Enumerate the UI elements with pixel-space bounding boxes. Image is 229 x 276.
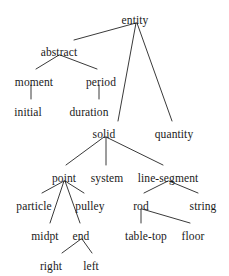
tree-node-quantity: quantity [155, 128, 194, 140]
tree-node-midpt: midpt [31, 230, 58, 242]
tree-node-floor: floor [182, 230, 205, 242]
tree-node-point: point [52, 172, 76, 184]
tree-edge-entity-to-solid [118, 23, 136, 121]
tree-node-right: right [40, 260, 62, 272]
tree-edge-rod-to-floor [142, 209, 190, 223]
tree-node-particle: particle [16, 200, 51, 212]
tree-diagram: entityabstractmomentperiodinitialduratio… [0, 0, 229, 276]
tree-node-end: end [73, 230, 90, 242]
tree-edge-point-to-midpt [50, 181, 64, 223]
tree-node-abstract: abstract [41, 46, 78, 58]
tree-node-entity: entity [122, 14, 149, 26]
tree-edge-solid-to-point [66, 137, 104, 165]
tree-node-string: string [190, 200, 217, 212]
tree-node-left: left [83, 260, 99, 272]
tree-node-moment: moment [15, 76, 53, 88]
tree-node-initial: initial [14, 106, 42, 118]
tree-node-rod: rod [133, 200, 149, 212]
tree-node-line-segment: line-segment [138, 172, 199, 184]
tree-node-duration: duration [69, 106, 108, 118]
tree-node-solid: solid [93, 128, 116, 140]
tree-node-pulley: pulley [75, 200, 104, 212]
tree-node-system: system [91, 172, 124, 184]
tree-node-table-top: table-top [125, 230, 167, 242]
tree-edge-solid-to-line-segment [106, 137, 163, 165]
tree-edge-entity-to-quantity [137, 23, 172, 121]
tree-node-period: period [86, 76, 116, 88]
